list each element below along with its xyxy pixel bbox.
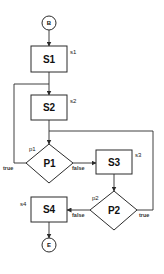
s1-tag: s1 xyxy=(70,49,77,55)
s4-label: S4 xyxy=(43,204,56,215)
node-s4: S4 s4 xyxy=(20,197,67,222)
flowchart-canvas: B S1 s1 S2 s2 P1 p1 true false S3 s3 P2 … xyxy=(0,0,164,274)
node-end: E xyxy=(42,238,56,252)
p1-label: P1 xyxy=(43,158,56,169)
node-s3: S3 s3 xyxy=(96,150,142,174)
node-p1: P1 p1 true false xyxy=(3,144,85,183)
p2-false-label: false xyxy=(72,212,85,218)
s2-label: S2 xyxy=(43,102,56,113)
node-p2: P2 p2 false true xyxy=(72,191,149,230)
s1-label: S1 xyxy=(43,54,56,65)
p2-tag: p2 xyxy=(92,195,99,201)
end-label: E xyxy=(47,242,51,248)
p1-true-label: true xyxy=(3,165,13,171)
s2-tag: s2 xyxy=(70,98,77,104)
p2-true-label: true xyxy=(139,212,149,218)
begin-label: B xyxy=(47,20,52,26)
node-s2: S2 s2 xyxy=(31,95,77,120)
node-begin: B xyxy=(42,16,56,30)
p1-tag: p1 xyxy=(29,146,36,152)
node-s1: S1 s1 xyxy=(31,46,77,72)
s3-tag: s3 xyxy=(135,152,142,158)
s3-label: S3 xyxy=(108,157,121,168)
p1-false-label: false xyxy=(72,165,85,171)
s4-tag: s4 xyxy=(20,201,27,207)
p2-label: P2 xyxy=(108,205,121,216)
